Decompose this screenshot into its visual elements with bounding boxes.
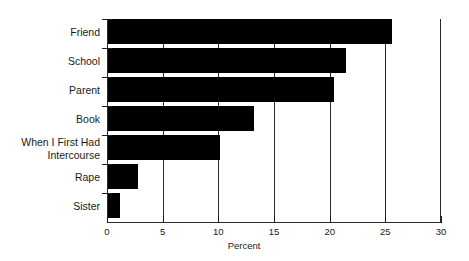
x-tick-label-30: 30	[421, 226, 461, 237]
y-tick-1	[102, 48, 112, 49]
x-tick-10	[218, 216, 219, 223]
category-label-intercourse: When I First Had Intercourse	[0, 136, 100, 161]
bar-book	[108, 106, 254, 131]
bar-sister	[108, 193, 120, 218]
x-tick-label-0: 0	[87, 226, 127, 237]
x-axis-title: Percent	[228, 240, 261, 251]
gridline-30	[440, 19, 441, 222]
category-label-sister: Sister	[0, 200, 100, 213]
bar-school	[108, 48, 346, 73]
category-label-text: School	[68, 55, 100, 67]
category-label-text: Sister	[73, 200, 100, 212]
x-tick-label-10: 10	[198, 226, 238, 237]
y-tick-2	[102, 77, 112, 78]
category-label-rape: Rape	[0, 171, 100, 184]
y-tick-3	[102, 106, 112, 107]
category-label-text: Friend	[70, 26, 100, 38]
y-tick-6	[102, 193, 112, 194]
category-label-text: Book	[76, 113, 100, 125]
y-tick-0	[102, 19, 112, 20]
x-tick-20	[330, 216, 331, 223]
y-tick-4	[102, 135, 112, 136]
category-label-parent: Parent	[0, 84, 100, 97]
bar-chart: Friend School Parent Book When I First H…	[0, 0, 469, 261]
x-tick-label-5: 5	[143, 226, 183, 237]
category-label-friend: Friend	[0, 26, 100, 39]
y-tick-5	[102, 164, 112, 165]
gridline-25	[385, 19, 386, 222]
category-label-text: When I First Had Intercourse	[21, 136, 100, 161]
x-tick-0	[107, 216, 108, 223]
x-tick-15	[274, 216, 275, 223]
x-tick-25	[385, 216, 386, 223]
plot-area	[107, 19, 441, 222]
x-tick-label-25: 25	[365, 226, 405, 237]
x-tick-label-20: 20	[310, 226, 350, 237]
x-tick-30	[441, 216, 442, 223]
bar-intercourse	[108, 135, 220, 160]
bar-rape	[108, 164, 138, 189]
category-label-school: School	[0, 55, 100, 68]
category-label-book: Book	[0, 113, 100, 126]
category-label-text: Rape	[75, 171, 100, 183]
bar-parent	[108, 77, 334, 102]
x-tick-5	[163, 216, 164, 223]
bar-friend	[108, 19, 392, 44]
x-tick-label-15: 15	[254, 226, 294, 237]
category-label-text: Parent	[69, 84, 100, 96]
